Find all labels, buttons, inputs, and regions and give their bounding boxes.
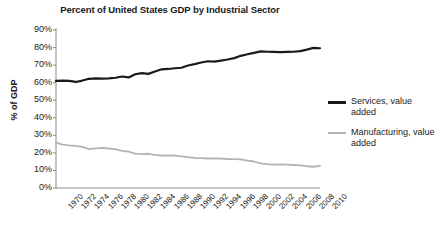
series-line-0 [56,48,320,82]
chart-figure: Percent of United States GDP by Industri… [0,0,442,231]
legend-item[interactable]: Services, value added [328,96,442,118]
legend-item[interactable]: Manufacturing, value added [328,127,442,149]
chart-legend: Services, value addedManufacturing, valu… [328,96,442,158]
legend-swatch-line-icon [328,101,346,104]
legend-label: Services, value added [351,96,439,118]
series-line-1 [56,143,320,167]
legend-label: Manufacturing, value added [351,127,439,149]
legend-swatch-line-icon [328,132,346,134]
